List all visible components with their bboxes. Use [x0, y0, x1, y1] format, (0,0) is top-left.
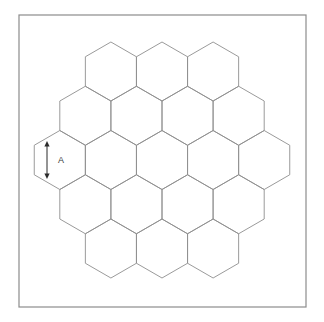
dimension-label-a: A [58, 155, 64, 165]
honeycomb-diagram: A [0, 0, 324, 322]
figure-background [0, 0, 324, 322]
figure-root: A [0, 0, 324, 322]
